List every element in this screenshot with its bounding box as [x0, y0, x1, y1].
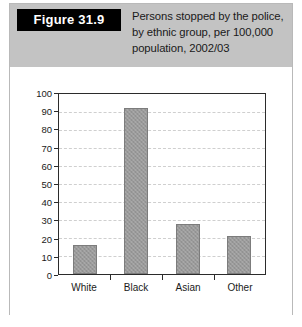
- bar: [227, 236, 251, 274]
- y-axis-tick-label: 100: [36, 88, 52, 99]
- y-tick-mark: [54, 257, 58, 258]
- y-axis-tick-label: 20: [41, 233, 52, 244]
- x-tick-mark: [162, 275, 163, 280]
- gridline: [59, 112, 265, 113]
- gridline: [59, 202, 265, 203]
- x-axis-category-label: Asian: [175, 282, 200, 293]
- gridline: [59, 166, 265, 167]
- x-axis-category-label: White: [71, 282, 97, 293]
- chart-plot-region: 0102030405060708090100 WhiteBlackAsianOt…: [10, 67, 292, 315]
- y-tick-mark: [54, 111, 58, 112]
- y-tick-mark: [54, 202, 58, 203]
- y-axis-tick-label: 30: [41, 215, 52, 226]
- x-axis-category-label: Other: [227, 282, 252, 293]
- x-axis-category-label: Black: [124, 282, 148, 293]
- figure-caption: Persons stopped by the police, by ethnic…: [132, 8, 290, 57]
- gridline: [59, 130, 265, 131]
- y-tick-mark: [54, 184, 58, 185]
- y-tick-mark: [54, 129, 58, 130]
- y-axis-tick-label: 50: [41, 179, 52, 190]
- gridline: [59, 148, 265, 149]
- y-tick-mark: [54, 148, 58, 149]
- y-axis-tick-label: 70: [41, 142, 52, 153]
- figure-header-band: Figure 31.9 Persons stopped by the polic…: [10, 4, 292, 67]
- y-tick-mark: [54, 166, 58, 167]
- plot-frame: [58, 93, 266, 275]
- y-axis-tick-label: 60: [41, 160, 52, 171]
- gridline: [59, 184, 265, 185]
- bar: [124, 108, 148, 274]
- y-tick-mark: [54, 220, 58, 221]
- y-tick-mark: [54, 239, 58, 240]
- figure-number-badge: Figure 31.9: [17, 9, 121, 31]
- x-tick-mark: [110, 275, 111, 280]
- gridline: [59, 220, 265, 221]
- x-tick-mark: [214, 275, 215, 280]
- y-tick-mark: [54, 93, 58, 94]
- y-axis-tick-label: 90: [41, 106, 52, 117]
- figure-card: Figure 31.9 Persons stopped by the polic…: [9, 3, 293, 315]
- bar: [73, 245, 97, 274]
- y-axis-tick-label: 0: [47, 270, 52, 281]
- y-axis-tick-label: 40: [41, 197, 52, 208]
- bar-chart: 0102030405060708090100 WhiteBlackAsianOt…: [58, 93, 266, 275]
- bar: [176, 224, 200, 274]
- y-axis-tick-label: 80: [41, 124, 52, 135]
- y-axis-tick-label: 10: [41, 251, 52, 262]
- y-tick-mark: [54, 275, 58, 276]
